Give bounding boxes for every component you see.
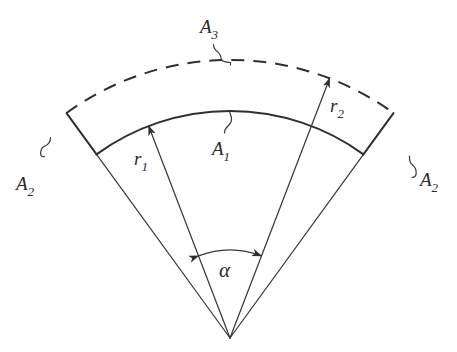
label-a2-right: A2 <box>418 169 439 195</box>
label-a1: A1 <box>210 138 230 164</box>
label-a2-left: A2 <box>14 173 35 199</box>
a3-leader-line <box>213 45 230 66</box>
annular-sector-diagram: A3 A1 A2 A2 r1 r2 α <box>0 0 457 352</box>
label-a3-sub: 3 <box>211 27 219 42</box>
a2-left-leader-line <box>41 138 51 157</box>
label-a1-base: A <box>210 138 224 159</box>
label-r1: r1 <box>134 148 148 174</box>
label-r2-sub: 2 <box>337 106 344 121</box>
label-a3: A3 <box>198 16 219 42</box>
outer-arc-dashed <box>67 60 394 113</box>
right-sector-boundary <box>230 154 363 338</box>
left-radial-edge <box>67 113 97 154</box>
a1-leader-line <box>224 112 231 134</box>
label-r2: r2 <box>330 95 344 121</box>
label-a2-right-base: A <box>418 169 432 190</box>
figure-root: A3 A1 A2 A2 r1 r2 α <box>0 0 457 352</box>
label-a3-base: A <box>198 16 212 37</box>
label-a2-right-sub: 2 <box>432 180 439 195</box>
right-radial-edge <box>363 113 393 154</box>
a2-right-leader-line <box>409 156 416 178</box>
label-a2-left-sub: 2 <box>28 184 35 199</box>
label-a1-sub: 1 <box>224 149 231 164</box>
label-a2-left-base: A <box>14 173 28 194</box>
central-angle-arc <box>198 250 261 256</box>
label-alpha: α <box>219 258 231 282</box>
left-sector-boundary <box>97 154 230 338</box>
label-r1-sub: 1 <box>141 159 148 174</box>
